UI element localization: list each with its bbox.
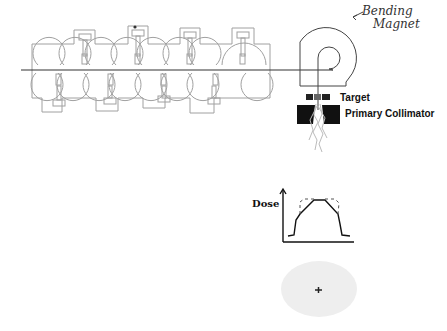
dose-profile-plot — [280, 189, 354, 242]
target — [306, 94, 330, 100]
linac-diagram — [0, 0, 447, 331]
primary-collimator-label: Primary Collimator — [345, 108, 434, 119]
target-label: Target — [340, 92, 370, 103]
bending-magnet-label-1: Bending — [362, 4, 413, 18]
dose-axis-label: Dose — [252, 198, 279, 209]
port-dot — [133, 25, 136, 28]
bending-magnet-label-2: Magnet — [373, 17, 420, 31]
